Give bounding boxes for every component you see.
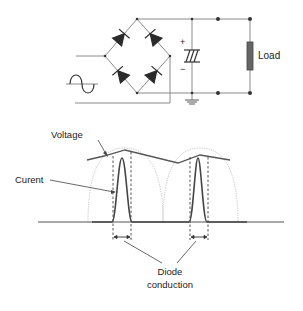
diode-icon	[112, 66, 130, 83]
load-resistor-icon	[247, 42, 253, 70]
current-label: Curent	[15, 174, 44, 185]
capacitor-icon	[184, 50, 200, 62]
ground-icon	[185, 100, 199, 104]
capacitor-plus-label: +	[180, 37, 185, 47]
bridge-rectifier-diagram: + − Load	[0, 0, 303, 311]
junction-dots	[104, 17, 252, 95]
load-label: Load	[258, 50, 280, 61]
conduction-interval-arrows	[114, 236, 207, 239]
rectifier-circuit	[75, 19, 250, 103]
voltage-label: Voltage	[51, 129, 83, 140]
diodes	[112, 29, 163, 83]
diode-icon	[112, 29, 130, 46]
current-pulses	[92, 158, 247, 222]
bridge-diamond	[105, 19, 170, 93]
capacitor-minus-label: −	[180, 64, 185, 74]
diode-icon	[144, 66, 162, 83]
ac-sine-source-icon	[66, 75, 98, 93]
callout-arrowheads	[103, 151, 116, 194]
diode-conduction-label-line2: conduction	[147, 279, 193, 290]
diode-icon	[145, 29, 163, 46]
diode-conduction-label-line1: Diode	[158, 266, 183, 277]
